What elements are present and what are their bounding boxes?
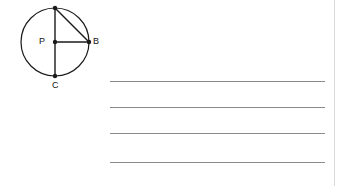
answer-line[interactable]	[110, 133, 325, 134]
worksheet-page: P B C	[0, 0, 343, 186]
point-a-dot	[53, 6, 57, 10]
point-label-p: P	[39, 37, 45, 46]
answer-line[interactable]	[110, 162, 325, 163]
margin-rule	[334, 0, 335, 186]
circle-diagram: P B C	[0, 0, 130, 100]
answer-line[interactable]	[110, 107, 325, 108]
point-b-dot	[87, 40, 91, 44]
point-label-c: C	[52, 81, 59, 90]
point-c-dot	[53, 74, 57, 78]
circle-diagram-svg	[0, 0, 130, 100]
answer-line[interactable]	[110, 81, 325, 82]
point-label-b: B	[93, 37, 99, 46]
point-p-dot	[53, 40, 57, 44]
